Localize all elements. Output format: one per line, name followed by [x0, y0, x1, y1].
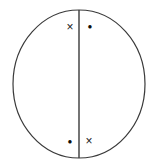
dot-icon-top-right: ● [88, 22, 93, 31]
cross-icon-bottom-right: × [85, 134, 92, 148]
circle-diagram: × ● ● × [0, 0, 158, 168]
diagram-canvas: × ● ● × [0, 0, 158, 168]
cross-icon-top-left: × [66, 20, 73, 34]
dot-icon-bottom-left: ● [68, 137, 73, 146]
